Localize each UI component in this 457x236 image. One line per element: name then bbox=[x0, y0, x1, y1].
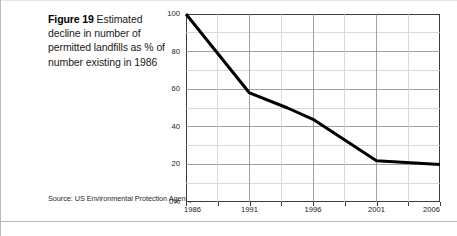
y-tick-label: 20 bbox=[172, 160, 180, 168]
x-tick-label: 1996 bbox=[305, 205, 322, 214]
y-axis-labels: 0%20406080100 bbox=[0, 14, 184, 202]
y-tick-label: 40 bbox=[172, 123, 180, 131]
figure-bottom-rule bbox=[0, 221, 457, 222]
x-tick-label: 2001 bbox=[368, 205, 385, 214]
x-tick-label: 1986 bbox=[184, 205, 201, 214]
x-tick-label: 2006 bbox=[423, 205, 440, 214]
line-chart bbox=[186, 14, 440, 202]
x-axis-labels: 19861991199620012006 bbox=[186, 205, 440, 219]
y-tick-label: 80 bbox=[172, 48, 180, 56]
y-tick-label: 100 bbox=[167, 10, 180, 18]
figure-container: Figure 19 Estimated decline in number of… bbox=[0, 0, 457, 236]
y-tick-label: 60 bbox=[172, 85, 180, 93]
y-tick-label: 0% bbox=[169, 198, 180, 206]
x-axis-tick bbox=[440, 202, 441, 206]
x-tick-label: 1991 bbox=[241, 205, 258, 214]
data-series-line bbox=[186, 14, 440, 202]
figure-top-rule bbox=[0, 0, 457, 1]
